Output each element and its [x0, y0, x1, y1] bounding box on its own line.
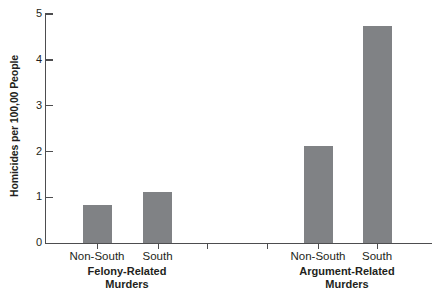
group-label: Argument-RelatedMurders [299, 265, 394, 291]
group-label-line2: Murders [299, 278, 394, 291]
x-tick-mark [318, 243, 319, 249]
bar [83, 205, 112, 243]
x-tick-label: Non-South [291, 250, 346, 262]
bar [363, 26, 392, 243]
group-label-line1: Felony-Related [88, 265, 167, 278]
x-tick-mark [97, 243, 98, 249]
x-tick-label: Non-South [70, 250, 125, 262]
x-tick-mark [377, 243, 378, 249]
x-tick-mark [158, 243, 159, 249]
group-label: Felony-RelatedMurders [88, 265, 167, 291]
bar-chart: Homicides per 100,00 People 543210 Non-S… [0, 0, 434, 298]
bar [143, 192, 172, 243]
x-tick-label: South [142, 250, 172, 262]
bars-layer [0, 0, 434, 244]
x-tick-mark [267, 243, 268, 249]
group-label-line2: Murders [88, 278, 167, 291]
group-label-line1: Argument-Related [299, 265, 394, 278]
x-tick-label: South [362, 250, 392, 262]
bar [304, 146, 333, 243]
x-tick-mark [207, 243, 208, 249]
